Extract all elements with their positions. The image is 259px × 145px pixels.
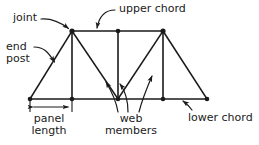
- leader-web-member-3: [139, 76, 152, 112]
- member-web-diagonal-2: [118, 31, 163, 99]
- label-end-post: endpost: [6, 41, 30, 65]
- label-panel-length-line2: length: [31, 124, 66, 137]
- label-panel-length: panellength: [21, 113, 77, 137]
- panel-length-dimension: [30, 98, 72, 112]
- member-end-post-left: [30, 31, 72, 99]
- joint-node-L4: [205, 97, 210, 102]
- member-web-diagonal-1: [72, 31, 118, 99]
- truss-members: [30, 31, 207, 99]
- label-web-members-line2: members: [105, 124, 157, 137]
- label-joint: joint: [13, 12, 37, 24]
- joint-node-L3: [161, 97, 166, 102]
- label-web-members: webmembers: [100, 113, 162, 137]
- leader-joint: [41, 19, 69, 29]
- label-end-post-line2: post: [6, 52, 30, 65]
- leader-upper-chord: [97, 10, 115, 28]
- leader-web-member-2: [120, 84, 128, 112]
- label-upper-chord: upper chord: [119, 3, 186, 15]
- joint-node-U2: [116, 29, 121, 34]
- leader-lower-chord: [183, 101, 192, 110]
- joint-node-U1: [69, 28, 74, 33]
- label-lower-chord: lower chord: [188, 112, 253, 124]
- joint-node-U3: [160, 28, 165, 33]
- truss-diagram: joint endpost upper chord panellength we…: [0, 0, 259, 145]
- joint-node-L2: [116, 97, 121, 102]
- annotation-leaders: [34, 10, 192, 112]
- member-end-post-right: [163, 31, 207, 99]
- leader-end-post: [34, 47, 55, 62]
